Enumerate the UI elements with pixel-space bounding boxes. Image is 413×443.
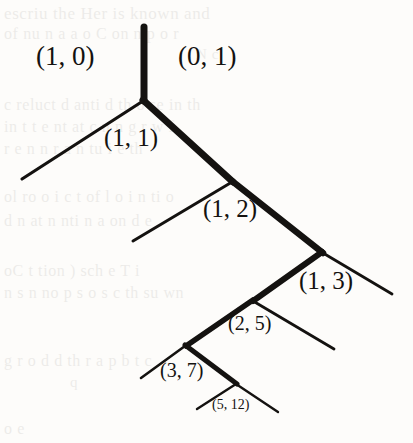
node-label-5-12: (5, 12) — [212, 398, 249, 412]
node-label-0-1: (0, 1) — [178, 43, 236, 70]
node-label-2-5: (2, 5) — [228, 313, 271, 333]
node-label-1-1: (1, 1) — [104, 125, 158, 150]
tree-diagram-figure: escriu the Her is known andof nu n a a o… — [0, 0, 413, 443]
node-label-1-3: (1, 3) — [299, 268, 353, 293]
node-label-1-2: (1, 2) — [203, 196, 257, 221]
node-label-1-0: (1, 0) — [36, 43, 94, 70]
node-label-3-7: (3, 7) — [160, 360, 203, 380]
thin-edge-group — [22, 101, 392, 412]
